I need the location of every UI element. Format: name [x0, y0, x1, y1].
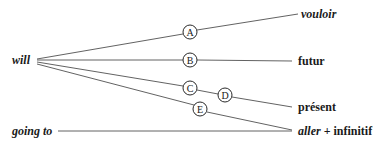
- node-A: A: [183, 25, 197, 39]
- target-infinitif: infinitif: [334, 124, 373, 138]
- node-E: E: [193, 102, 207, 116]
- node-B: B: [183, 53, 197, 67]
- source-will: will: [12, 53, 30, 67]
- target-aller-infinitif: aller + infinitif: [298, 124, 372, 138]
- node-C: C: [183, 81, 197, 95]
- plus-sign: +: [324, 124, 331, 138]
- edge-will-aller: [37, 64, 292, 130]
- svg-text:B: B: [187, 55, 194, 66]
- node-D: D: [218, 88, 232, 102]
- target-present: présent: [298, 100, 336, 114]
- translation-diagram: A B C D E will going to vouloir futur pr…: [0, 0, 389, 145]
- edge-will-futur: [37, 60, 292, 61]
- target-vouloir: vouloir: [301, 7, 336, 21]
- target-aller: aller: [298, 124, 321, 138]
- svg-text:C: C: [187, 83, 194, 94]
- svg-text:D: D: [221, 90, 228, 101]
- svg-text:E: E: [197, 104, 203, 115]
- source-going-to: going to: [12, 124, 52, 138]
- target-futur: futur: [298, 54, 325, 68]
- edge-will-present: [37, 62, 292, 107]
- edge-will-vouloir: [37, 14, 298, 59]
- svg-text:A: A: [186, 27, 194, 38]
